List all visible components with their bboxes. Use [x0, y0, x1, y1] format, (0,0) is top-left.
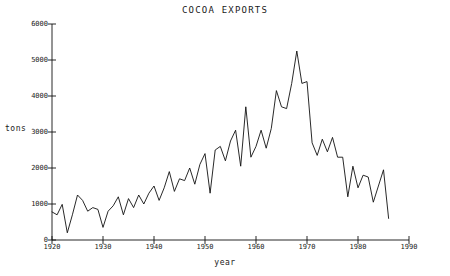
plot-area: [0, 0, 450, 276]
chart-root: COCOA EXPORTS tons year 0100020003000400…: [0, 0, 450, 276]
data-line-cocoa-exports: [52, 51, 389, 233]
